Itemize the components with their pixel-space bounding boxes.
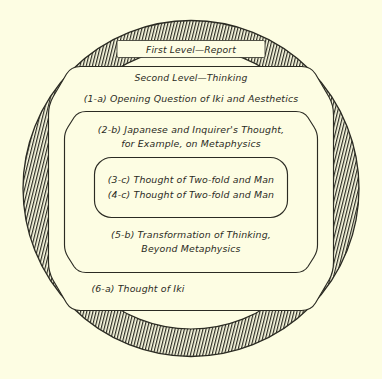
first-level-label: First Level—Report [146, 44, 236, 55]
core-region [95, 158, 288, 218]
core-outline [95, 158, 288, 218]
nested-levels-diagram: First Level—Report Second Level—Thinking… [0, 0, 382, 379]
item-2b-label-line2: for Example, on Metaphysics [121, 138, 260, 149]
item-2b-label-line1: (2-b) Japanese and Inquirer's Thought, [98, 124, 284, 135]
item-3c-label: (3-c) Thought of Two-fold and Man [108, 174, 274, 185]
item-1a-label: (1-a) Opening Question of Iki and Aesthe… [84, 93, 299, 104]
item-5b-label-line2: Beyond Metaphysics [141, 243, 240, 254]
item-5b-label-line1: (5-b) Transformation of Thinking, [111, 229, 271, 240]
item-4c-label: (4-c) Thought of Two-fold and Man [108, 189, 274, 200]
diagram-canvas: First Level—Report Second Level—Thinking… [0, 0, 382, 379]
item-6a-label: (6-a) Thought of Iki [91, 283, 184, 294]
second-level-label: Second Level—Thinking [135, 72, 248, 83]
